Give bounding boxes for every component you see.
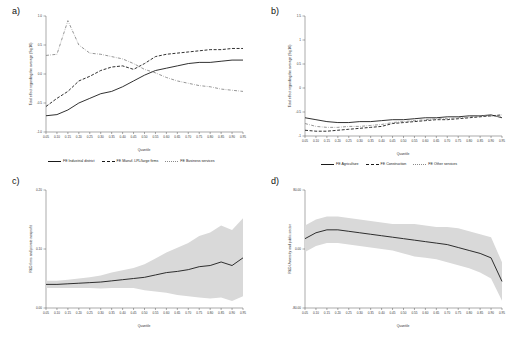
legend-item-fe-agriculture: FE Agriculture: [321, 162, 359, 166]
panel-b-y-ticks: 1.5 1 0.5 0 -0.5 -1: [296, 14, 305, 138]
series-line: [46, 60, 243, 116]
x-tick-label: 0.55: [411, 139, 417, 143]
x-tick-label: 0.55: [152, 311, 158, 315]
panel-b-ytick-0: 1.5: [297, 14, 302, 18]
panel-d-y-ticks: 80.00 0.00 -80.00: [292, 188, 305, 310]
panel-b-xlabel: Quantile: [397, 152, 410, 156]
panel-b-ylabel: Total effect regarding the average (Sq:1…: [288, 45, 292, 108]
panel-b: b) 1.5 1 0.5 0 -0.5 -1 Total effect rega…: [259, 0, 517, 172]
panel-c-y-ticks: 0.20 0.10 0.00: [36, 188, 46, 310]
panel-a-y-ticks: 1.0 0.5 0.0 -0.5 -1.0: [37, 14, 46, 134]
x-tick-label: 0.20: [76, 311, 82, 315]
x-tick-label: 0.40: [379, 311, 385, 315]
panel-d-plot: 80.00 0.00 -80.00 R&D University and pub…: [259, 172, 517, 347]
x-tick-label: 0.55: [152, 135, 158, 139]
x-tick-label: 0.20: [335, 311, 341, 315]
x-tick-label: 0.10: [313, 311, 319, 315]
panel-d-ytick-0: 80.00: [293, 188, 301, 192]
x-tick-label: 0.15: [65, 311, 71, 315]
x-tick-label: 0.35: [109, 135, 115, 139]
panel-b-ytick-4: -0.5: [296, 110, 302, 114]
x-tick-label: 0.40: [120, 135, 126, 139]
x-tick-label: 0.30: [357, 139, 363, 143]
x-tick-label: 0.75: [196, 135, 202, 139]
legend-item-fe-manuf-lpl-large-firms: FE Manuf. LPL/large firms: [102, 159, 159, 163]
x-tick-label: 0.25: [346, 311, 352, 315]
x-tick-label: 0.10: [54, 135, 60, 139]
legend-item-fe-construction: FE Construction: [366, 162, 407, 166]
x-tick-label: 0.15: [65, 135, 71, 139]
panel-c-band: [46, 218, 243, 301]
panel-d-ylabel: R&D University and public sector: [288, 223, 292, 273]
legend-label-2: FE Business services: [180, 159, 214, 163]
x-tick-label: 0.95: [240, 311, 246, 315]
x-tick-label: 0.65: [174, 135, 180, 139]
panel-a-ylabel: Total effect regarding the average (Sq:1…: [29, 43, 33, 106]
panel-a-letter: a): [12, 6, 20, 16]
panel-b-ytick-2: 0.5: [297, 62, 302, 66]
x-tick-label: 0.90: [229, 135, 235, 139]
x-tick-label: 0.70: [444, 139, 450, 143]
panel-a-x-ticks: 0.050.100.150.200.250.300.350.400.450.50…: [43, 132, 246, 139]
x-tick-label: 0.85: [477, 311, 483, 315]
x-tick-label: 0.25: [87, 135, 93, 139]
x-tick-label: 0.90: [488, 139, 494, 143]
panel-c-ytick-0: 0.20: [36, 188, 42, 192]
x-tick-label: 0.65: [174, 311, 180, 315]
x-tick-label: 0.10: [54, 311, 60, 315]
x-tick-label: 0.50: [141, 311, 147, 315]
panel-d-ytick-1: 0.00: [295, 247, 301, 251]
panel-d: d) 80.00 0.00 -80.00 R&D University and …: [259, 172, 517, 347]
legend-swatch-solid: [321, 164, 334, 165]
legend-label-0: FE Industrial district: [63, 159, 95, 163]
x-tick-label: 0.70: [444, 311, 450, 315]
x-tick-label: 0.50: [141, 135, 147, 139]
panel-a-xlabel: Quantile: [138, 148, 151, 152]
x-tick-label: 0.05: [302, 139, 308, 143]
x-tick-label: 0.65: [433, 139, 439, 143]
panel-a-ytick-3: -0.5: [37, 101, 43, 105]
x-tick-label: 0.60: [422, 139, 428, 143]
legend-label-1: FE Manuf. LPL/large firms: [117, 159, 159, 163]
panel-a-ytick-1: 0.5: [38, 43, 43, 47]
x-tick-label: 0.30: [357, 311, 363, 315]
x-tick-label: 0.20: [335, 139, 341, 143]
panel-c-ytick-1: 0.10: [36, 247, 42, 251]
panel-c-letter: c): [12, 176, 20, 186]
legend-label-0: FE Agriculture: [336, 162, 359, 166]
panel-b-ytick-1: 1: [299, 38, 301, 42]
panel-b-plot: 1.5 1 0.5 0 -0.5 -1 Total effect regardi…: [259, 0, 517, 172]
x-tick-label: 0.50: [400, 311, 406, 315]
panel-c-plot: 0.20 0.10 0.00 R&D firms and private non…: [0, 172, 258, 347]
x-tick-label: 0.30: [98, 135, 104, 139]
panel-c-xlabel: Quantile: [138, 324, 151, 328]
legend-swatch-dashdot: [413, 164, 426, 165]
x-tick-label: 0.05: [43, 135, 49, 139]
series-line: [46, 21, 243, 92]
legend-item-fe-other-services: FE Other services: [413, 162, 457, 166]
x-tick-label: 0.35: [109, 311, 115, 315]
x-tick-label: 0.80: [207, 311, 213, 315]
x-tick-label: 0.80: [466, 139, 472, 143]
x-tick-label: 0.50: [400, 139, 406, 143]
confidence-band: [46, 218, 243, 301]
panel-b-x-ticks: 0.050.100.150.200.250.300.350.400.450.50…: [302, 136, 505, 143]
panel-b-letter: b): [271, 6, 279, 16]
legend-item-fe-industrial-district: FE Industrial district: [48, 159, 95, 163]
panel-a-ytick-0: 1.0: [38, 14, 43, 18]
legend-swatch-dash: [102, 161, 115, 162]
x-tick-label: 0.15: [324, 311, 330, 315]
panel-b-ytick-3: 0: [299, 86, 301, 90]
panel-d-x-ticks: 0.050.100.150.200.250.300.350.400.450.50…: [302, 308, 505, 315]
x-tick-label: 0.55: [411, 311, 417, 315]
x-tick-label: 0.05: [302, 311, 308, 315]
panel-b-series: [305, 115, 502, 131]
panel-d-xlabel: Quantile: [397, 324, 410, 328]
x-tick-label: 0.10: [313, 139, 319, 143]
x-tick-label: 0.20: [76, 135, 82, 139]
series-line: [46, 48, 243, 106]
x-tick-label: 0.75: [455, 139, 461, 143]
confidence-band: [305, 217, 502, 301]
x-tick-label: 0.25: [346, 139, 352, 143]
panel-d-band: [305, 217, 502, 301]
